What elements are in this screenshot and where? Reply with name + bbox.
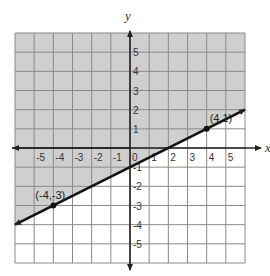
x-tick-label: -5 (36, 152, 45, 163)
x-tick-label: 5 (228, 152, 234, 163)
x-tick-label: -4 (55, 152, 64, 163)
x-tick-label: 2 (170, 152, 176, 163)
point-label: (-4,-3) (35, 189, 65, 201)
x-axis-label: x (264, 140, 270, 155)
y-tick-label: 4 (133, 66, 139, 77)
x-tick-label: 4 (209, 152, 215, 163)
x-tick-label: -2 (94, 152, 103, 163)
y-tick-label: -5 (133, 239, 142, 250)
y-tick-label: 5 (133, 47, 139, 58)
y-tick-label: 3 (133, 86, 139, 97)
y-tick-label: -4 (133, 220, 142, 231)
x-tick-label: -3 (75, 152, 84, 163)
point-label: (4,1) (210, 112, 233, 124)
y-axis-label: y (123, 8, 131, 23)
point-marker (204, 126, 210, 132)
x-tick-label: 3 (190, 152, 196, 163)
y-tick-label: -3 (133, 201, 142, 212)
x-tick-label: -1 (113, 152, 122, 163)
y-tick-label: 1 (133, 124, 139, 135)
point-marker (50, 203, 56, 209)
y-tick-label: 2 (133, 105, 139, 116)
y-tick-label: -2 (133, 181, 142, 192)
coordinate-graph: xy -5-4-3-2-101234554321-1-2-3-4-5 (-4,-… (0, 0, 270, 276)
